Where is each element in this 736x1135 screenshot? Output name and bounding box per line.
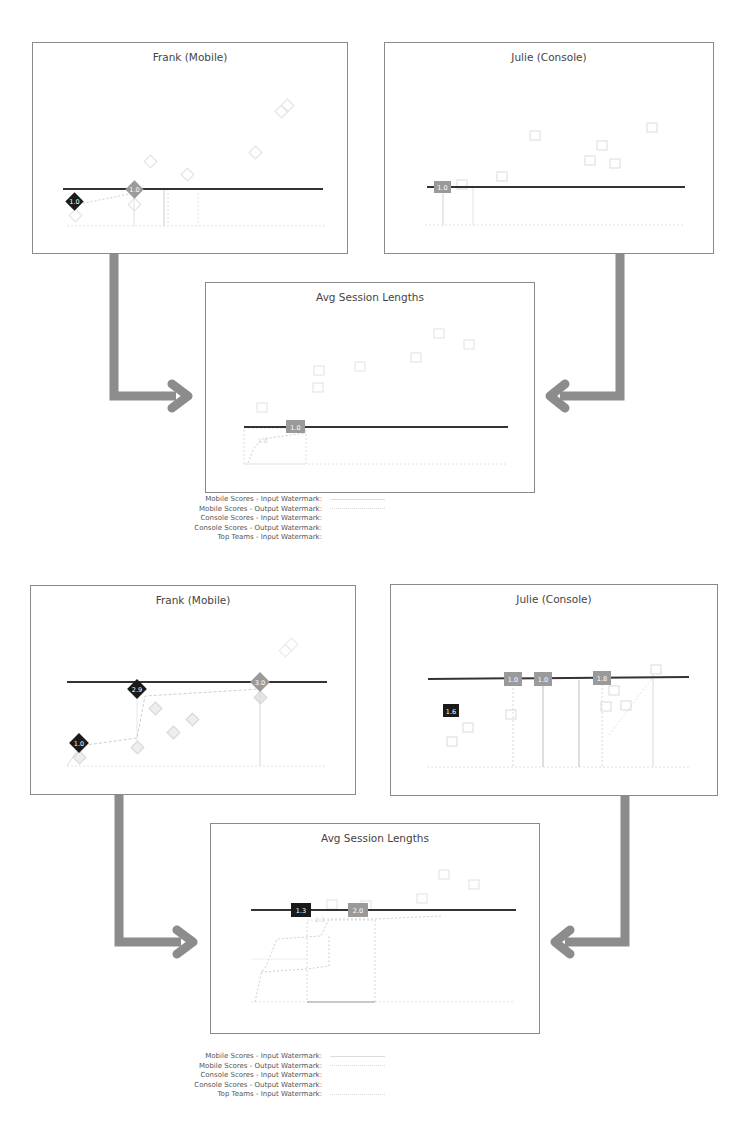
svg-text:1.6: 1.6 — [446, 708, 456, 716]
svg-text:1.3: 1.3 — [296, 907, 306, 915]
julie-console-plot: 1.6 1.0 1.0 1.8 — [391, 585, 719, 797]
arrow-frank-to-avg-1 — [108, 254, 193, 414]
legend-swatch — [330, 1085, 385, 1086]
svg-text:3.0: 3.0 — [255, 679, 265, 687]
arrow-julie-to-avg-1 — [545, 254, 630, 414]
avg-session-plot: 1.0 1.0 — [206, 283, 536, 494]
avg-session-lengths-chart-2: Avg Session Lengths 2.3 1.3 2.0 — [210, 823, 540, 1034]
diamond-marker-dark: 1.0 — [69, 733, 89, 753]
watermark-legend-1: Mobile Scores - Input Watermark: Mobile … — [180, 495, 385, 543]
watermark-legend-2: Mobile Scores - Input Watermark: Mobile … — [180, 1052, 385, 1100]
legend-swatch — [330, 1094, 385, 1096]
legend-row: Console Scores - Input Watermark: — [180, 514, 385, 524]
avg-session-plot: 2.3 1.3 2.0 — [211, 824, 541, 1035]
svg-text:1.0: 1.0 — [508, 676, 518, 684]
svg-text:1.0: 1.0 — [437, 184, 447, 192]
legend-swatch — [330, 508, 385, 510]
legend-swatch — [330, 528, 385, 529]
legend-row: Mobile Scores - Output Watermark: — [180, 1062, 385, 1072]
svg-text:2.9: 2.9 — [132, 686, 142, 694]
julie-console-chart-2: Julie (Console) 1.6 1.0 1.0 — [390, 584, 718, 796]
square-marker-mid: 1.0 — [286, 420, 305, 433]
frank-mobile-chart-1: Frank (Mobile) 1.0 1.0 — [32, 42, 348, 254]
svg-text:1.0: 1.0 — [538, 676, 548, 684]
svg-text:1.8: 1.8 — [597, 675, 607, 683]
frank-mobile-plot: 1.0 2.9 3.0 — [31, 586, 357, 796]
square-marker-mid: 1.0 — [434, 181, 451, 193]
svg-text:1.0: 1.0 — [290, 424, 300, 432]
julie-console-chart-1: Julie (Console) 1.0 — [384, 42, 714, 254]
legend-swatch — [330, 1065, 385, 1067]
svg-text:2.3: 2.3 — [315, 916, 325, 923]
square-marker-mid: 2.0 — [348, 903, 368, 917]
legend-row: Mobile Scores - Input Watermark: — [180, 495, 385, 505]
legend-swatch — [330, 538, 385, 539]
avg-session-lengths-chart-1: Avg Session Lengths 1.0 1.0 — [205, 282, 535, 493]
arrow-julie-to-avg-2 — [550, 795, 635, 960]
arrow-frank-to-avg-2 — [113, 795, 198, 960]
frank-mobile-chart-2: Frank (Mobile) 1.0 2.9 3.0 — [30, 585, 356, 795]
legend-row: Console Scores - Output Watermark: — [180, 1081, 385, 1091]
square-marker-mid: 1.0 — [534, 672, 552, 686]
diamond-marker-mid: 1.0 — [125, 180, 143, 198]
svg-text:1.0: 1.0 — [69, 198, 79, 206]
svg-text:2.0: 2.0 — [353, 907, 363, 915]
svg-text:1.0: 1.0 — [258, 437, 268, 444]
legend-row: Mobile Scores - Output Watermark: — [180, 505, 385, 515]
legend-swatch — [330, 1056, 385, 1058]
legend-swatch — [330, 1075, 385, 1076]
legend-swatch — [330, 499, 385, 501]
svg-text:1.0: 1.0 — [129, 186, 139, 194]
square-marker-mid: 1.0 — [504, 672, 522, 686]
square-marker-mid: 1.8 — [593, 671, 611, 685]
legend-swatch — [330, 518, 385, 519]
legend-row: Console Scores - Output Watermark: — [180, 524, 385, 534]
square-marker-dark: 1.3 — [291, 903, 311, 917]
svg-text:1.0: 1.0 — [74, 740, 84, 748]
legend-row: Top Teams - Input Watermark: — [180, 1090, 385, 1100]
frank-mobile-plot: 1.0 1.0 — [33, 43, 349, 255]
legend-row: Top Teams - Input Watermark: — [180, 533, 385, 543]
diamond-marker-dark: 1.0 — [65, 192, 83, 210]
square-marker-dark: 1.6 — [443, 704, 459, 717]
legend-row: Console Scores - Input Watermark: — [180, 1071, 385, 1081]
diamond-marker-mid: 3.0 — [250, 672, 270, 692]
legend-row: Mobile Scores - Input Watermark: — [180, 1052, 385, 1062]
julie-console-plot: 1.0 — [385, 43, 715, 255]
